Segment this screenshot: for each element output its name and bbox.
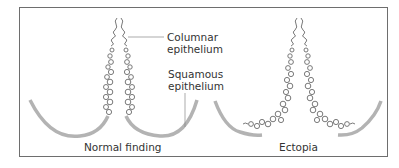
label-line: Columnar	[167, 31, 223, 43]
squamous-arc-left	[215, 101, 262, 135]
cervix-ectopia-figure: Columnar epithelium Squamous epithelium …	[0, 0, 399, 168]
caption-normal-finding: Normal finding	[84, 141, 162, 153]
columnar-strand-left	[243, 18, 297, 129]
squamous-epithelium-label: Squamous epithelium	[168, 68, 224, 92]
label-line: Squamous	[168, 68, 224, 80]
caption-ectopia: Ectopia	[279, 141, 318, 153]
squamous-arc-right	[338, 101, 381, 135]
columnar-strand-right	[121, 18, 135, 115]
columnar-strand-right	[301, 18, 355, 129]
label-line: epithelium	[168, 80, 224, 92]
label-line: epithelium	[167, 43, 223, 55]
columnar-strand-left	[103, 18, 117, 115]
squamous-arc-left	[30, 100, 108, 136]
columnar-epithelium-label: Columnar epithelium	[167, 31, 223, 55]
ectopia-panel	[215, 18, 381, 135]
squamous-arc-right	[126, 100, 197, 136]
